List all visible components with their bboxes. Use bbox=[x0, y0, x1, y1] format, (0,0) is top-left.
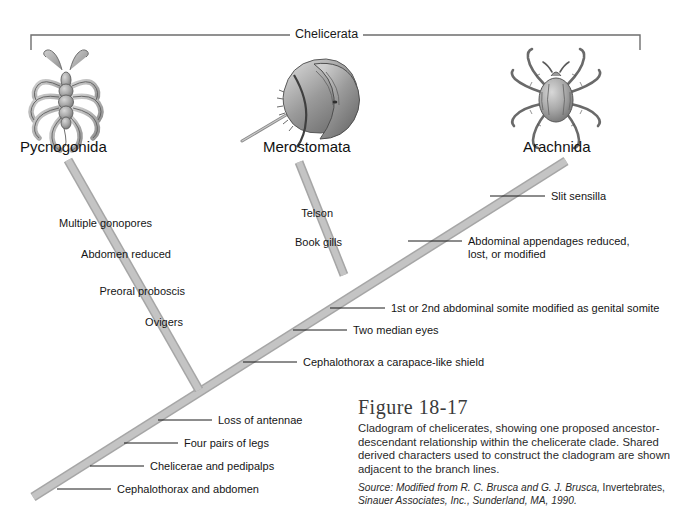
character-telson: Telson bbox=[240, 207, 333, 220]
figure-caption-text: Cladogram of chelicerates, showing one p… bbox=[358, 422, 678, 476]
character-loss-of-antennae: Loss of antennae bbox=[218, 414, 302, 427]
character-abdomen-reduced: Abdomen reduced bbox=[0, 248, 171, 261]
figure-title: Figure 18-17 bbox=[358, 396, 678, 419]
clade-label-chelicerata: Chelicerata bbox=[290, 27, 363, 41]
character-two-median-eyes: Two median eyes bbox=[353, 324, 439, 337]
character-slit-sensilla: Slit sensilla bbox=[551, 190, 606, 203]
sea-spider-illustration bbox=[31, 50, 101, 150]
character-four-pairs-of-legs: Four pairs of legs bbox=[184, 437, 269, 450]
character-abdominal-appendages-line2: lost, or modified bbox=[468, 248, 546, 261]
taxon-label-pycnogonida: Pycnogonida bbox=[20, 138, 107, 155]
character-genital-somite: 1st or 2nd abdominal somite modified as … bbox=[391, 302, 659, 315]
character-cephalothorax-and-abdomen: Cephalothorax and abdomen bbox=[117, 483, 259, 496]
character-abdominal-appendages-line1: Abdominal appendages reduced, bbox=[468, 235, 629, 248]
branch-pycnogonida bbox=[68, 160, 199, 390]
figure-source-work: Invertebrates, bbox=[603, 482, 665, 493]
figure-source-publisher: Sinauer Associates, Inc., Sunderland, MA… bbox=[358, 495, 577, 506]
character-book-gills: Book gills bbox=[240, 236, 342, 249]
figure-source-prefix: Source: Modified from R. C. Brusca and G… bbox=[358, 482, 600, 493]
character-multiple-gonopores: Multiple gonopores bbox=[0, 217, 152, 230]
taxon-label-merostomata: Merostomata bbox=[263, 138, 351, 155]
character-chelicerae-and-pedipalps: Chelicerae and pedipalps bbox=[150, 460, 274, 473]
cladogram-figure: Chelicerata Pycnogonida Merostomata Arac… bbox=[0, 0, 686, 512]
figure-source: Source: Modified from R. C. Brusca and G… bbox=[358, 482, 678, 507]
figure-caption-block: Figure 18-17 Cladogram of chelicerates, … bbox=[358, 396, 678, 507]
character-ovigers: Ovigers bbox=[0, 316, 183, 329]
tick-illustration bbox=[512, 49, 600, 148]
taxon-label-arachnida: Arachnida bbox=[523, 138, 591, 155]
horseshoe-crab-illustration bbox=[242, 59, 360, 147]
character-preoral-proboscis: Preoral proboscis bbox=[0, 285, 185, 298]
character-carapace-like-shield: Cephalothorax a carapace-like shield bbox=[303, 356, 484, 369]
